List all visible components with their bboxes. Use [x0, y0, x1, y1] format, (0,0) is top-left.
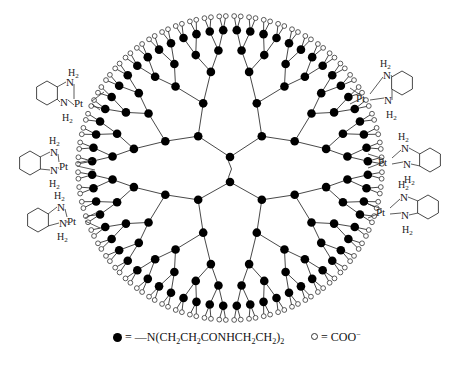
carboxylate-formula: COO− — [331, 330, 361, 344]
branch-node — [281, 268, 290, 277]
platinum-complexes: NNH2H2PtNNH2H2PtNNH2H2PtNNH2H2PtNNH2H2Pt… — [20, 58, 441, 244]
branch-node — [343, 152, 352, 161]
branch-node — [143, 275, 152, 284]
n-pt-bond — [370, 77, 383, 94]
platinum-label: Pt — [356, 92, 365, 104]
carboxylate-terminal — [332, 55, 337, 60]
branch-node — [258, 196, 267, 205]
branch-node — [122, 219, 131, 228]
bond — [149, 114, 166, 142]
branch-node — [252, 228, 261, 237]
branch-node — [260, 277, 269, 286]
carboxylate-terminal — [113, 66, 118, 71]
branch-node — [285, 39, 294, 48]
carboxylate-terminal — [104, 253, 109, 258]
dendrimer-diagram: NNH2H2PtNNH2H2PtNNH2H2PtNNH2H2PtNNH2H2Pt… — [0, 0, 452, 369]
bond — [295, 141, 326, 149]
carboxylate-terminal — [276, 21, 281, 26]
branch-node — [123, 256, 132, 265]
branch-node — [322, 145, 331, 154]
carboxylate-terminal — [321, 45, 326, 50]
branch-node — [191, 277, 200, 286]
ring-n-bond — [411, 164, 420, 166]
carboxylate-terminal — [296, 302, 301, 307]
bond — [198, 103, 203, 136]
branch-node — [161, 190, 170, 199]
branch-node — [360, 197, 369, 206]
carboxylate-terminal — [160, 30, 165, 35]
carboxylate-terminal — [327, 51, 332, 56]
carboxylate-terminal — [268, 19, 273, 24]
branch-node — [318, 61, 327, 70]
branch-node — [88, 170, 97, 179]
carboxylate-terminal — [76, 155, 81, 160]
platinum-label: Pt — [67, 215, 76, 227]
carboxylate-terminal — [366, 228, 371, 233]
bond — [295, 195, 312, 223]
carboxylate-terminal — [338, 270, 343, 275]
ring-n-bond — [48, 207, 57, 214]
n-pt-bond — [390, 199, 400, 208]
carboxylate-terminal — [104, 78, 109, 83]
branch-node — [245, 68, 254, 77]
ring-n-bond — [57, 82, 66, 87]
carboxylate-terminal — [342, 265, 347, 270]
bond — [230, 136, 262, 157]
dendrimer-bonds — [78, 16, 382, 320]
branch-node — [328, 256, 337, 265]
bond — [262, 195, 295, 200]
platinum-label: Pt — [376, 206, 385, 218]
carboxylate-terminal — [128, 51, 133, 56]
carboxylate-terminal — [370, 220, 375, 225]
bond — [262, 136, 295, 141]
branch-node — [356, 117, 365, 126]
legend-open-node: = COO− — [311, 330, 361, 345]
branch-node — [350, 105, 359, 114]
branch-node — [343, 175, 352, 184]
branch-node — [192, 30, 201, 39]
branch-node — [362, 143, 371, 152]
h2-label: H2 — [62, 112, 73, 125]
carboxylate-terminal — [117, 61, 122, 66]
bond — [257, 87, 285, 104]
carboxylate-terminal — [96, 90, 101, 95]
bond — [230, 182, 262, 200]
branch-node — [214, 281, 223, 290]
branch-node — [232, 302, 241, 311]
branch-node — [171, 245, 180, 254]
branch-node — [171, 82, 180, 91]
carboxylate-terminal — [134, 286, 139, 291]
branch-node — [258, 132, 267, 141]
branch-node — [134, 89, 143, 98]
nitrogen-label: N — [401, 209, 409, 221]
terminal-carboxylates — [76, 14, 385, 323]
branch-node — [344, 235, 353, 244]
cyclohexane-ring — [28, 208, 49, 232]
carboxylate-terminal — [290, 304, 295, 309]
carboxylate-terminal — [376, 199, 381, 204]
bond — [134, 141, 165, 149]
carboxylate-terminal — [238, 317, 243, 322]
branch-node — [297, 282, 306, 291]
bond — [203, 233, 211, 264]
carboxylate-terminal — [128, 280, 133, 285]
branch-node — [108, 152, 117, 161]
branch-node — [122, 108, 131, 117]
branch-node — [252, 99, 261, 108]
branch-node — [96, 117, 105, 126]
branch-node — [344, 93, 353, 102]
branch-node — [115, 246, 124, 255]
carboxylate-terminal — [253, 315, 258, 320]
carboxylate-terminal — [202, 16, 207, 21]
carboxylate-terminal — [268, 312, 273, 317]
branch-node — [337, 246, 346, 255]
carboxylate-terminal — [356, 85, 361, 90]
nitrogen-label: N — [60, 96, 68, 108]
branch-node — [226, 178, 235, 187]
carboxylate-terminal — [194, 17, 199, 22]
carboxylate-terminal — [364, 234, 369, 239]
carboxylate-terminal — [107, 72, 112, 77]
branch-node — [232, 26, 241, 35]
branch-node — [144, 109, 153, 118]
branch-node — [167, 288, 176, 297]
